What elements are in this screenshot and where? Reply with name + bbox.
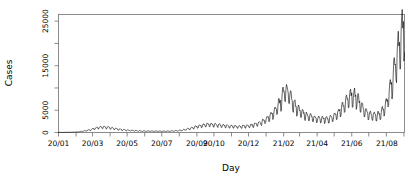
y-axis-title: Cases (4, 59, 14, 86)
x-tick-label: 20/05 (116, 139, 138, 148)
x-tick-label: 21/04 (306, 139, 328, 148)
plot-border (59, 15, 405, 133)
x-axis-title: Day (222, 163, 240, 173)
y-tick-label: 15000 (41, 54, 50, 78)
line-chart-svg: 050001500025000 20/0120/0320/0520/0720/0… (0, 0, 420, 182)
chart-container: 050001500025000 20/0120/0320/0520/0720/0… (0, 0, 420, 182)
y-axis: 050001500025000 (41, 9, 59, 135)
x-tick-label: 20/10 (203, 139, 225, 148)
x-tick-label: 21/08 (376, 139, 398, 148)
x-tick-label: 20/12 (238, 139, 260, 148)
series-line-daily-cases (59, 9, 405, 132)
x-tick-label: 21/06 (341, 139, 363, 148)
plot-frame (59, 15, 405, 133)
x-tick-label: 20/07 (151, 139, 173, 148)
x-tick-label: 21/02 (273, 139, 295, 148)
x-axis: 20/0120/0320/0520/0720/0920/1020/1221/02… (48, 133, 404, 148)
y-tick-label: 25000 (41, 9, 50, 33)
x-tick-label: 20/03 (82, 139, 104, 148)
x-tick-label: 20/01 (48, 139, 70, 148)
y-tick-label: 0 (41, 130, 50, 135)
data-series-group (59, 9, 405, 132)
y-tick-label: 5000 (41, 100, 50, 119)
